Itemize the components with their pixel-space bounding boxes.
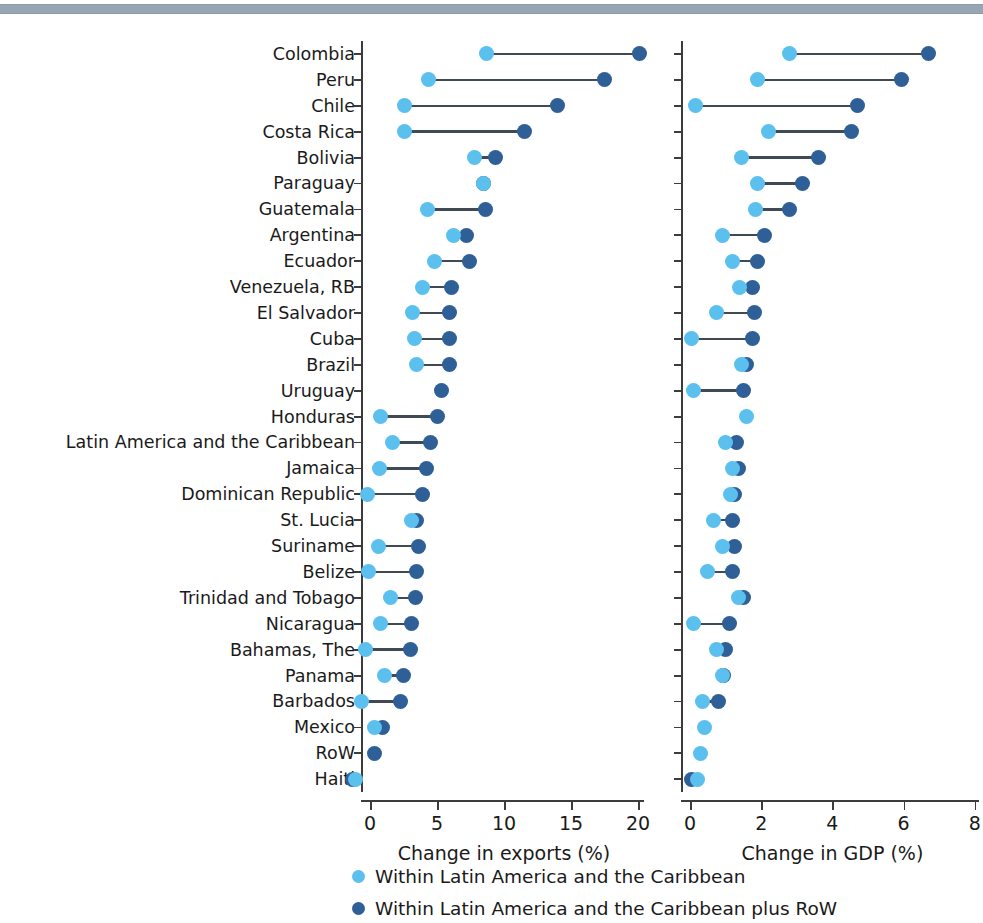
category-label: Barbados <box>272 688 355 714</box>
y-axis-tick <box>354 312 361 314</box>
data-point-dark <box>811 150 826 165</box>
category-label: Honduras <box>271 404 355 430</box>
data-point-light <box>361 564 376 579</box>
data-point-light <box>732 280 747 295</box>
data-point-light <box>467 150 482 165</box>
category-label: Jamaica <box>286 455 355 481</box>
y-axis-tick <box>674 519 681 521</box>
legend-label-dark: Within Latin America and the Caribbean p… <box>375 898 837 919</box>
y-axis-tick <box>674 312 681 314</box>
category-label: Uruguay <box>281 378 355 404</box>
data-point-light <box>695 694 710 709</box>
data-point-light <box>686 383 701 398</box>
data-point-dark <box>396 668 411 683</box>
data-point-light <box>748 202 763 217</box>
data-point-dark <box>442 357 457 372</box>
y-axis-tick <box>674 778 681 780</box>
y-axis-tick <box>354 260 361 262</box>
connector-line <box>405 105 558 107</box>
category-label: Brazil <box>306 352 355 378</box>
category-label: Paraguay <box>273 170 355 196</box>
x-axis-tick-label: 5 <box>431 812 443 834</box>
data-point-light <box>725 254 740 269</box>
legend-item-light: Within Latin America and the Caribbean <box>352 861 745 891</box>
data-point-light <box>690 772 705 787</box>
data-point-dark <box>478 202 493 217</box>
data-point-light <box>405 305 420 320</box>
x-axis-tick-label: 4 <box>826 812 838 834</box>
x-axis-tick-label: 0 <box>684 812 696 834</box>
category-label: Peru <box>316 67 355 93</box>
category-label: Suriname <box>271 533 355 559</box>
data-point-dark <box>844 124 859 139</box>
data-point-dark <box>550 98 565 113</box>
data-point-dark <box>782 202 797 217</box>
category-label: Costa Rica <box>262 119 355 145</box>
category-label: Chile <box>311 93 355 119</box>
data-point-light <box>706 513 721 528</box>
data-point-dark <box>367 746 382 761</box>
y-axis-tick <box>674 105 681 107</box>
figure-dumbbell-chart: ColombiaPeruChileCosta RicaBoliviaParagu… <box>0 16 983 923</box>
y-axis-tick <box>674 338 681 340</box>
y-axis-tick <box>354 442 361 444</box>
y-axis-tick <box>354 597 361 599</box>
data-point-dark <box>462 254 477 269</box>
connector-line <box>487 53 640 55</box>
x-axis-tick <box>437 802 439 810</box>
y-axis-tick <box>674 752 681 754</box>
x-axis-tick <box>504 802 506 810</box>
data-point-dark <box>736 383 751 398</box>
y-axis-tick <box>674 79 681 81</box>
data-point-dark <box>745 280 760 295</box>
y-axis-tick <box>354 286 361 288</box>
data-point-light <box>427 254 442 269</box>
y-axis-tick <box>674 416 681 418</box>
legend-swatch-light-icon <box>352 870 365 883</box>
x-axis-tick-label: 10 <box>492 812 516 834</box>
y-axis-line <box>361 41 363 792</box>
data-point-dark <box>795 176 810 191</box>
y-axis-tick <box>354 571 361 573</box>
category-label: Trinidad and Tobago <box>180 585 355 611</box>
data-point-light <box>420 202 435 217</box>
x-axis-tick-label: 8 <box>969 812 981 834</box>
data-point-light <box>385 435 400 450</box>
data-point-light <box>739 409 754 424</box>
data-point-dark <box>488 150 503 165</box>
data-point-dark <box>415 487 430 502</box>
data-point-dark <box>444 280 459 295</box>
y-axis-tick <box>674 390 681 392</box>
y-axis-tick <box>674 286 681 288</box>
y-axis-tick <box>354 416 361 418</box>
data-point-dark <box>411 539 426 554</box>
y-axis-tick <box>354 545 361 547</box>
y-axis-tick <box>674 545 681 547</box>
data-point-dark <box>459 228 474 243</box>
data-point-light <box>348 772 363 787</box>
connector-line <box>758 79 902 81</box>
data-point-dark <box>419 461 434 476</box>
connector-line <box>429 79 605 81</box>
data-point-light <box>700 564 715 579</box>
data-point-light <box>354 694 369 709</box>
data-point-light <box>367 720 382 735</box>
x-axis-tick-label: 20 <box>626 812 650 834</box>
category-label: RoW <box>316 740 355 766</box>
y-axis-tick <box>354 234 361 236</box>
category-label: Mexico <box>294 714 355 740</box>
category-label: El Salvador <box>257 300 355 326</box>
x-axis-tick-label: 6 <box>898 812 910 834</box>
y-axis-line <box>681 41 683 792</box>
category-label: Bahamas, The <box>230 637 355 663</box>
y-axis-tick <box>674 597 681 599</box>
data-point-light <box>693 746 708 761</box>
data-point-light <box>718 435 733 450</box>
data-point-light <box>415 280 430 295</box>
data-point-light <box>407 331 422 346</box>
x-axis-tick-label: 2 <box>755 812 767 834</box>
category-label: Dominican Republic <box>181 481 355 507</box>
x-axis-line <box>681 800 979 802</box>
x-axis-tick <box>761 802 763 810</box>
data-point-dark <box>894 72 909 87</box>
